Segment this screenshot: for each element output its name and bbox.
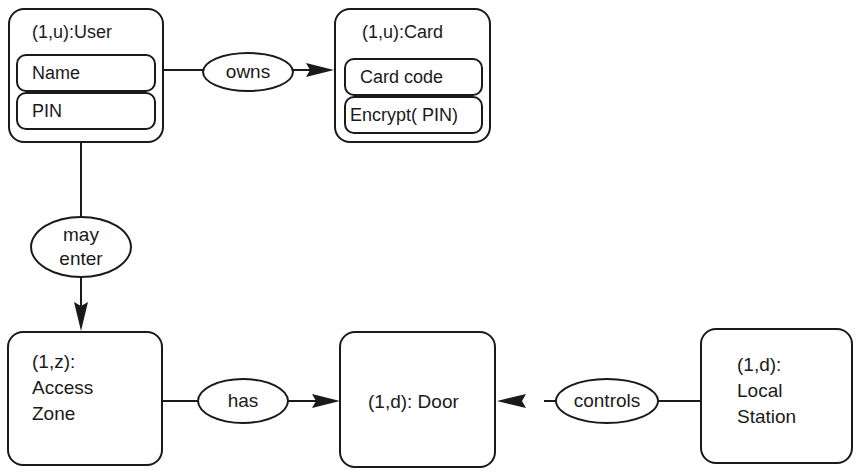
relation-has-label: has: [228, 389, 259, 413]
attribute-card-code[interactable]: Card code: [344, 58, 483, 96]
relation-owns[interactable]: owns: [202, 52, 294, 92]
relation-may-enter-line2: enter: [59, 247, 102, 271]
relation-controls[interactable]: controls: [555, 378, 659, 424]
entity-access-zone[interactable]: (1,z): Access Zone: [7, 331, 163, 466]
local-station-line3: Station: [737, 404, 796, 430]
entity-access-zone-label: (1,z): Access Zone: [32, 349, 93, 427]
arrow-to-door-icon: [312, 394, 340, 408]
arrow-to-access-zone-icon: [74, 302, 88, 331]
relation-has[interactable]: has: [197, 378, 289, 424]
access-zone-line3: Zone: [32, 401, 93, 427]
entity-door[interactable]: (1,d): Door: [339, 331, 496, 468]
relation-may-enter[interactable]: may enter: [30, 216, 132, 278]
entity-local-station-label: (1,d): Local Station: [737, 352, 796, 430]
relation-may-enter-line1: may: [63, 223, 99, 247]
arrow-to-card-icon: [306, 63, 334, 77]
attribute-name[interactable]: Name: [16, 54, 156, 92]
entity-user-title: (1,u):User: [32, 22, 112, 43]
relation-owns-label: owns: [226, 60, 270, 84]
local-station-line1: (1,d):: [737, 352, 796, 378]
relation-controls-label: controls: [574, 389, 641, 413]
access-zone-line1: (1,z):: [32, 349, 93, 375]
local-station-line2: Local: [737, 378, 796, 404]
attribute-pin[interactable]: PIN: [16, 92, 156, 130]
entity-user[interactable]: (1,u):User Name PIN: [8, 8, 164, 143]
entity-card-title: (1,u):Card: [362, 22, 443, 43]
entity-door-label: (1,d): Door: [368, 389, 459, 415]
access-zone-line2: Access: [32, 375, 93, 401]
entity-card[interactable]: (1,u):Card Card code Encrypt( PIN): [334, 8, 491, 143]
arrow-from-station-icon: [497, 394, 526, 408]
entity-local-station[interactable]: (1,d): Local Station: [700, 328, 853, 464]
attribute-encrypt-pin[interactable]: Encrypt( PIN): [344, 96, 483, 134]
